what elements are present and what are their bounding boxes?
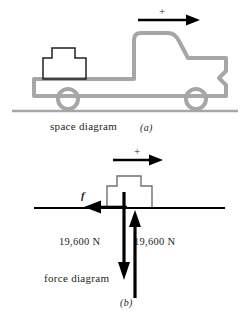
friction-force-label: f <box>81 189 85 201</box>
panel-a-label: (a) <box>140 122 153 133</box>
positive-direction-sign-b: + <box>134 145 141 157</box>
left-arrow-icon <box>84 201 127 214</box>
up-arrow-icon <box>129 210 141 298</box>
crate-icon-b <box>107 176 152 208</box>
truck-icon <box>34 33 226 96</box>
down-arrow-icon <box>118 192 130 280</box>
figure-canvas <box>0 0 251 323</box>
panel-a-space-diagram <box>12 15 238 112</box>
physics-figure: + space diagram (a) + f 19,600 N 19,600 … <box>0 0 251 323</box>
force-diagram-caption: force diagram <box>44 272 109 284</box>
normal-force-label: 19,600 N <box>134 236 175 247</box>
crate-icon <box>43 48 86 79</box>
positive-direction-sign-a: + <box>159 5 166 17</box>
truck-wheels-icon <box>58 89 206 109</box>
panel-b-label: (b) <box>120 297 133 308</box>
right-arrow-icon <box>138 15 200 26</box>
weight-force-label: 19,600 N <box>59 236 100 247</box>
space-diagram-caption: space diagram <box>50 120 117 132</box>
